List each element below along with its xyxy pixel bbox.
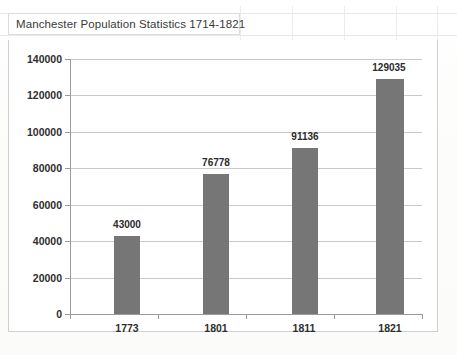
- gridline: [70, 205, 422, 206]
- x-axis-label: 1821: [350, 322, 430, 334]
- bar-1811[interactable]: [292, 148, 318, 314]
- y-axis-label: 100000: [4, 126, 62, 138]
- bar-1801[interactable]: [203, 174, 229, 314]
- bar-value-label: 129035: [349, 62, 429, 73]
- y-axis-label: 60000: [4, 199, 62, 211]
- y-axis-line: [70, 59, 71, 315]
- gridline: [70, 132, 422, 133]
- y-axis-label: 20000: [4, 272, 62, 284]
- bar-value-label: 43000: [87, 219, 167, 230]
- bar-1773[interactable]: [114, 236, 140, 314]
- y-axis-label: 140000: [4, 53, 62, 65]
- plot-area: [70, 59, 422, 314]
- bar-value-label: 91136: [265, 131, 345, 142]
- x-axis-label: 1773: [87, 322, 167, 334]
- bar-value-label: 76778: [176, 157, 256, 168]
- gridline: [70, 59, 422, 60]
- gridline: [70, 168, 422, 169]
- x-axis-label: 1811: [264, 322, 344, 334]
- y-axis-label: 0: [4, 308, 62, 320]
- y-axis-label: 40000: [4, 235, 62, 247]
- gridline: [70, 95, 422, 96]
- x-axis-label: 1801: [176, 322, 256, 334]
- bar-1821[interactable]: [376, 79, 404, 314]
- y-axis-label: 80000: [4, 162, 62, 174]
- y-axis-label: 120000: [4, 89, 62, 101]
- y-axis-label-group: 0 20000 40000 60000 80000 100000 120000 …: [0, 0, 62, 355]
